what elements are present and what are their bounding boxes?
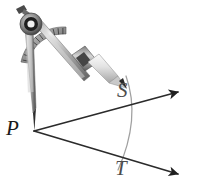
compass-icon [16,5,127,131]
point-label-T: T [115,158,127,179]
compass-pivot-icon [20,13,42,35]
ray-upper-PS [34,92,178,131]
point-label-P: P [6,118,19,139]
geometry-construction-figure: P S T [0,0,200,193]
ray-lower-PT [34,131,178,174]
point-label-S: S [117,80,128,101]
figure-canvas [0,0,200,193]
